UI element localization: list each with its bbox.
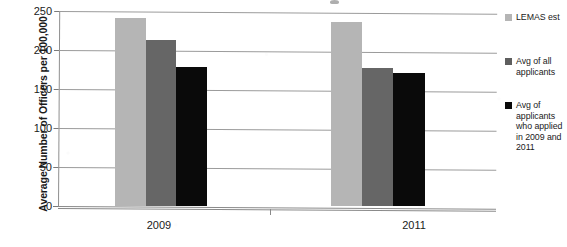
y-tick-label-50: 50 <box>18 162 52 173</box>
legend-item-avg-all-applicants[interactable]: Avg of all applicants <box>505 56 567 77</box>
plot-area <box>58 8 496 209</box>
legend-label-avg-all-applicants: Avg of all applicants <box>516 56 567 77</box>
legend-swatch-lemas-est-icon <box>505 14 512 21</box>
bar-2011-avg-all-applicants <box>362 68 393 206</box>
x-tick-label-2011: 2011 <box>374 219 454 231</box>
y-tick-label-150: 150 <box>18 84 52 95</box>
legend-label-lemas-est: LEMAS est <box>516 12 560 23</box>
y-tick-label-250: 250 <box>18 6 52 17</box>
legend-item-avg-applied-both[interactable]: Avg of applicants who applied in 2009 an… <box>505 100 567 153</box>
legend-swatch-avg-all-applicants-icon <box>505 58 512 65</box>
legend-swatch-avg-applied-both-icon <box>505 102 512 109</box>
bar-2011-avg-applied-both <box>393 73 425 206</box>
bar-2009-avg-all-applicants <box>146 40 176 206</box>
bar-2009-lemas-est <box>115 18 146 206</box>
bars-layer <box>58 8 496 209</box>
y-tick-label-0: 0 <box>18 201 52 212</box>
scan-artifact <box>330 0 339 4</box>
bar-2009-avg-applied-both <box>176 67 207 206</box>
y-tick-label-100: 100 <box>18 123 52 134</box>
x-axis-group-separator-tick <box>270 209 271 215</box>
x-tick-label-2009: 2009 <box>119 219 199 231</box>
legend-label-avg-applied-both: Avg of applicants who applied in 2009 an… <box>516 100 567 153</box>
y-tick-label-200: 200 <box>18 45 52 56</box>
legend-item-lemas-est[interactable]: LEMAS est <box>505 12 567 23</box>
y-axis-tick-labels: 250 200 150 100 50 0 <box>16 0 52 247</box>
bar-2011-lemas-est <box>331 22 362 206</box>
bar-chart: Average Number of Officers per 100,000 2… <box>0 0 567 247</box>
